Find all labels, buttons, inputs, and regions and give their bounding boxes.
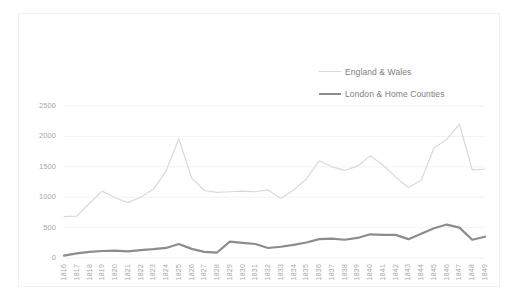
x-axis-tick-1821: 1821 — [124, 264, 131, 280]
x-axis-tick-1823: 1823 — [149, 264, 156, 280]
x-axis-tick-1825: 1825 — [175, 264, 182, 280]
x-axis-tick-1844: 1844 — [417, 264, 424, 280]
x-axis-tick-1848: 1848 — [468, 264, 475, 280]
x-axis-tick-1837: 1837 — [328, 264, 335, 280]
x-axis-tick-1824: 1824 — [162, 264, 169, 280]
x-axis-tick-1827: 1827 — [200, 264, 207, 280]
legend-item-england-wales[interactable]: England & Wales — [319, 63, 509, 80]
x-axis-tick-1828: 1828 — [213, 264, 220, 280]
chart-legend: England & Wales London & Home Counties — [319, 63, 509, 107]
chart-figure: England & Wales London & Home Counties 0… — [0, 0, 521, 297]
x-axis-tick-1845: 1845 — [430, 264, 437, 280]
legend-swatch-london-home-counties — [319, 93, 341, 95]
x-axis-tick-1849: 1849 — [481, 264, 488, 280]
series-line-england-wales — [64, 124, 485, 216]
legend-item-london-home-counties[interactable]: London & Home Counties — [319, 85, 509, 102]
x-axis-tick-1819: 1819 — [98, 264, 105, 280]
x-axis-tick-1847: 1847 — [455, 264, 462, 280]
x-axis-tick-1836: 1836 — [315, 264, 322, 280]
legend-swatch-england-wales — [319, 71, 341, 72]
y-axis-tick-2500: 2500 — [22, 101, 56, 110]
legend-label-london-home-counties: London & Home Counties — [345, 89, 445, 99]
y-axis-tick-1500: 1500 — [22, 162, 56, 171]
x-axis-tick-1838: 1838 — [341, 264, 348, 280]
series-line-london-home-counties — [64, 225, 485, 256]
x-axis-tick-1817: 1817 — [73, 264, 80, 280]
x-axis-tick-1822: 1822 — [137, 264, 144, 280]
x-axis-tick-1830: 1830 — [239, 264, 246, 280]
y-axis-tick-2000: 2000 — [22, 131, 56, 140]
series-lines — [64, 124, 485, 255]
x-axis-tick-1840: 1840 — [366, 264, 373, 280]
gridlines — [64, 106, 485, 258]
chart-plot-frame: England & Wales London & Home Counties 0… — [18, 13, 500, 287]
y-axis-tick-1000: 1000 — [22, 192, 56, 201]
y-axis-tick-0: 0 — [22, 253, 56, 262]
x-axis-tick-1839: 1839 — [353, 264, 360, 280]
x-axis-tick-1841: 1841 — [379, 264, 386, 280]
x-axis-tick-1834: 1834 — [290, 264, 297, 280]
x-axis-tick-1829: 1829 — [226, 264, 233, 280]
x-axis-tick-1831: 1831 — [251, 264, 258, 280]
x-axis-tick-1835: 1835 — [302, 264, 309, 280]
x-axis-tick-1818: 1818 — [86, 264, 93, 280]
legend-label-england-wales: England & Wales — [345, 67, 411, 77]
x-axis-tick-1820: 1820 — [111, 264, 118, 280]
x-axis-tick-1832: 1832 — [264, 264, 271, 280]
x-axis-tick-1842: 1842 — [392, 264, 399, 280]
chart-canvas — [19, 14, 499, 286]
x-axis-tick-1846: 1846 — [443, 264, 450, 280]
x-axis-tick-1816: 1816 — [60, 264, 67, 280]
y-axis-tick-500: 500 — [22, 223, 56, 232]
x-axis-tick-1843: 1843 — [404, 264, 411, 280]
x-axis-tick-1833: 1833 — [277, 264, 284, 280]
x-axis-tick-1826: 1826 — [188, 264, 195, 280]
